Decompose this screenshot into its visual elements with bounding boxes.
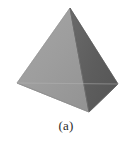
figure-panel: (a) xyxy=(0,0,132,148)
tetrahedron-illustration xyxy=(0,0,132,120)
tetrahedron-svg xyxy=(0,0,132,120)
figure-caption: (a) xyxy=(0,118,132,134)
